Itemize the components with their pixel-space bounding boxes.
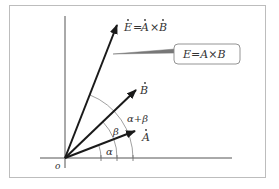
vector-A	[65, 131, 135, 158]
svg-text:A: A	[140, 21, 149, 34]
phasor-diagram: o A B E = A × B E=A×B α β α+β	[0, 0, 279, 189]
origin-label: o	[55, 161, 61, 171]
label-E-equation: E = A × B	[123, 19, 167, 34]
vector-E	[65, 25, 117, 158]
label-alpha-plus-beta: α+β	[127, 113, 148, 124]
label-beta: β	[112, 126, 119, 137]
svg-text:×: ×	[150, 21, 159, 34]
label-A: A	[141, 131, 150, 144]
svg-text:E: E	[123, 21, 132, 34]
callout-text: E=A×B	[182, 48, 226, 61]
label-B: B	[139, 84, 148, 97]
svg-text:B: B	[158, 21, 167, 34]
callout-pointer	[113, 49, 175, 54]
label-alpha: α	[106, 146, 113, 157]
